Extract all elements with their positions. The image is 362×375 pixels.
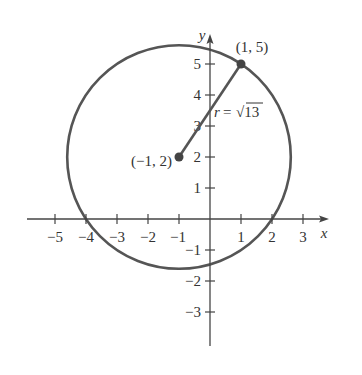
x-tick-label: −3 [109,229,125,245]
center-point-label: (−1, 2) [131,153,172,170]
y-tick-label: 4 [194,87,202,103]
y-tick-label: −2 [185,273,201,289]
circle-point [237,60,246,69]
x-tick-label: −4 [78,229,94,245]
y-tick-label: 1 [194,180,202,196]
x-tick-label: −5 [47,229,63,245]
x-tick-label: 3 [299,229,307,245]
y-axis: 5 4 3 2 1 −1 −2 −3 y [185,27,215,346]
x-tick-label: −1 [170,229,186,245]
x-tick-label: −2 [140,229,156,245]
y-tick-label: 5 [194,56,202,72]
diagram-canvas: −5 −4 −3 −2 −1 1 2 3 x 5 4 3 [0,0,362,375]
x-tick-label: 1 [237,229,245,245]
y-tick-label: 2 [194,149,202,165]
x-axis-label: x [320,225,328,241]
radius-label-equals: = [223,104,231,120]
radius-label-value: √13 [236,104,259,120]
y-tick-label: −3 [185,304,201,320]
y-axis-label: y [197,27,206,43]
circle-diagram: −5 −4 −3 −2 −1 1 2 3 x 5 4 3 [0,0,362,375]
center-point [175,153,184,162]
x-axis: −5 −4 −3 −2 −1 1 2 3 x [27,214,329,245]
x-tick-label: 2 [268,229,276,245]
radius-label-r: r [214,104,220,120]
radius-label: r = √13 [214,103,263,120]
y-tick-label: −1 [185,242,201,258]
circle-point-label: (1, 5) [236,39,269,56]
